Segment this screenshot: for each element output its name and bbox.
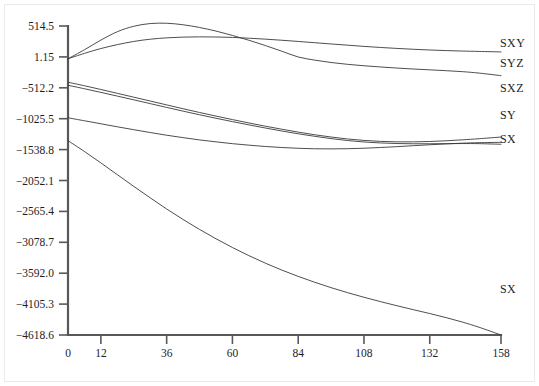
series-label: SY bbox=[500, 108, 516, 122]
x-axis-group: 012366084108132158 bbox=[65, 335, 510, 359]
y-tick-label: −3592.0 bbox=[16, 267, 54, 279]
x-tick-label: 108 bbox=[355, 347, 373, 359]
series-line-syz bbox=[68, 23, 501, 75]
y-tick-labels: 514.51.15−512.2−1025.5−1538.8−2052.1−256… bbox=[16, 20, 54, 341]
data-series-group bbox=[68, 23, 501, 335]
y-tick-label: −3078.7 bbox=[16, 236, 54, 248]
series-label: SX bbox=[500, 282, 516, 296]
chart-container: 514.51.15−512.2−1025.5−1538.8−2052.1−256… bbox=[0, 0, 539, 386]
y-tick-label: −512.2 bbox=[22, 82, 55, 94]
series-line-sxz bbox=[68, 118, 501, 149]
y-tick-label: −4618.6 bbox=[16, 329, 54, 341]
y-tick-label: 514.5 bbox=[28, 20, 54, 32]
x-tick-label: 84 bbox=[292, 347, 304, 359]
series-label: SX bbox=[500, 132, 516, 146]
series-line-sx-upper bbox=[68, 85, 501, 144]
series-label-group: SXYSYZSXZSYSXSX bbox=[500, 36, 525, 296]
y-axis-group: 514.51.15−512.2−1025.5−1538.8−2052.1−256… bbox=[16, 20, 68, 341]
y-tick-label: −1538.8 bbox=[16, 144, 54, 156]
series-label: SXY bbox=[500, 36, 525, 50]
x-tick-label: 36 bbox=[161, 347, 173, 359]
x-tick-label: 132 bbox=[421, 347, 439, 359]
y-tick-label: −4105.3 bbox=[16, 298, 54, 310]
series-line-sxy bbox=[68, 37, 501, 59]
y-tick-marks bbox=[59, 26, 67, 335]
x-tick-label: 12 bbox=[95, 347, 107, 359]
x-tick-label: 158 bbox=[492, 347, 510, 359]
x-tick-marks bbox=[101, 336, 501, 344]
y-tick-label: 1.15 bbox=[34, 51, 54, 63]
series-line-sx bbox=[68, 141, 501, 335]
x-tick-label: 0 bbox=[65, 347, 71, 359]
y-tick-label: −2052.1 bbox=[16, 175, 54, 187]
series-label: SYZ bbox=[500, 56, 524, 70]
series-label: SXZ bbox=[500, 81, 524, 95]
x-tick-labels: 012366084108132158 bbox=[65, 347, 510, 359]
y-tick-label: −2565.4 bbox=[16, 205, 54, 217]
y-tick-label: −1025.5 bbox=[16, 113, 54, 125]
series-line-sy bbox=[68, 82, 501, 142]
line-chart-svg: 514.51.15−512.2−1025.5−1538.8−2052.1−256… bbox=[0, 0, 539, 386]
x-tick-label: 60 bbox=[227, 347, 239, 359]
